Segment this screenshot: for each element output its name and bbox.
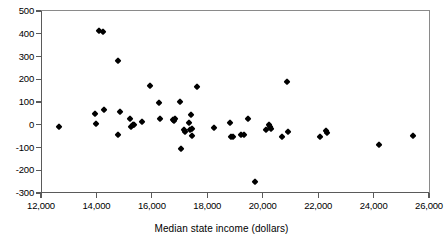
x-axis-title: Median state income (dollars) [0,223,443,234]
x-axis-tick-label: 14,000 [66,201,126,211]
y-axis-tick-label: -300 [4,188,34,198]
plot-area [41,11,429,193]
y-axis-tick-label: 300 [4,52,34,62]
y-axis-tick [36,101,41,102]
y-axis-tick-label: -100 [4,143,34,153]
x-axis-tick [40,193,41,198]
x-axis-tick [151,193,152,198]
y-axis-tick-label: -200 [4,165,34,175]
x-axis-tick [318,193,319,198]
y-axis-tick [36,147,41,148]
x-axis-tick-label: 18,000 [177,201,237,211]
y-axis-tick [36,33,41,34]
y-axis-tick-label: 400 [4,29,34,39]
x-axis-tick-label: 20,000 [233,201,293,211]
x-axis-tick-label: 12,000 [11,201,71,211]
x-axis-tick [207,193,208,198]
y-axis-tick-label: 500 [4,6,34,16]
y-axis-tick [36,79,41,80]
y-axis-tick [36,124,41,125]
y-axis-tick-label: 200 [4,74,34,84]
y-axis-tick [36,170,41,171]
x-axis-tick-label: 24,000 [344,201,404,211]
x-axis-tick-label: 16,000 [122,201,182,211]
x-axis-tick [262,193,263,198]
y-axis-tick [36,10,41,11]
y-axis-tick [36,56,41,57]
y-axis-tick-label: 0 [4,120,34,130]
x-axis-tick [96,193,97,198]
x-axis-tick-label: 26,000 [399,201,448,211]
x-axis-tick [428,193,429,198]
y-axis-tick-label: 100 [4,97,34,107]
x-axis-tick [373,193,374,198]
x-axis-tick-label: 22,000 [288,201,348,211]
